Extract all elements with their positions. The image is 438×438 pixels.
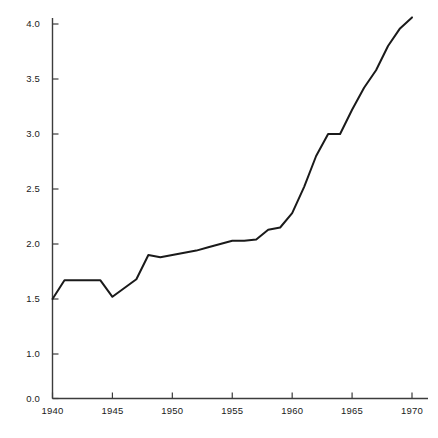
x-axis-ticks — [53, 393, 413, 399]
y-tick-label: 3.5 — [14, 73, 40, 84]
x-tick-label: 1940 — [33, 405, 73, 416]
y-tick-label: 1.0 — [14, 348, 40, 359]
x-tick-label: 1955 — [212, 405, 252, 416]
y-tick-label: 0.0 — [14, 393, 40, 404]
y-axis-ticks — [53, 24, 59, 399]
x-tick-label: 1945 — [92, 405, 132, 416]
y-tick-label: 2.5 — [14, 183, 40, 194]
y-tick-label: 4.0 — [14, 18, 40, 29]
chart-canvas — [0, 0, 438, 438]
x-tick-label: 1965 — [332, 405, 372, 416]
y-tick-label: 1.5 — [14, 293, 40, 304]
x-tick-label: 1970 — [392, 405, 432, 416]
y-tick-label: 3.0 — [14, 128, 40, 139]
line-chart: 0.01.01.52.02.53.03.54.0 194019451950195… — [0, 0, 438, 438]
data-line-series-value — [53, 17, 413, 299]
x-tick-label: 1950 — [152, 405, 192, 416]
x-tick-label: 1960 — [272, 405, 312, 416]
y-tick-label: 2.0 — [14, 238, 40, 249]
